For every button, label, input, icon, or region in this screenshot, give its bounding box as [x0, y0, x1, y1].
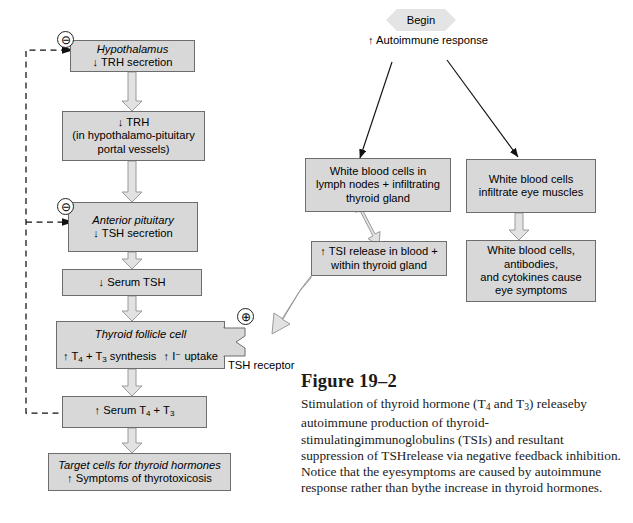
wbc-eye-line2: infiltrate eye muscles [479, 186, 583, 199]
tsh-receptor-notch [223, 326, 255, 358]
figure-title: Figure 19–2 [301, 371, 621, 392]
serum-t4-t3-label: ↑ Serum T4 + T3 [95, 404, 175, 420]
trh-line2: (in hypothalamo-pituitary [72, 129, 195, 142]
positive-sign-receptor: ⊕ [237, 308, 254, 325]
node-target-cells[interactable]: Target cells for thyroid hormones ↑ Symp… [48, 453, 231, 491]
trh-line3: portal vessels) [97, 143, 169, 156]
tsi-release-line1: ↑ TSI release in blood + [320, 245, 438, 258]
begin-label: Begin [407, 14, 436, 26]
node-thyroid-follicle-cell[interactable]: Thyroid follicle cell ↑ T4 + T3 synthesi… [56, 321, 225, 369]
tsi-to-receptor-arrow [272, 276, 311, 334]
trigger-autoimmune-response: ↑ Autoimmune response [368, 34, 478, 47]
node-hypothalamus[interactable]: Hypothalamus ↓ TRH secretion [70, 40, 195, 72]
target-cells-detail: ↑ Symptoms of thyrotoxicosis [67, 472, 212, 485]
begin-hexagon[interactable]: Begin [386, 9, 456, 31]
wbc-lymph-line3: thyroid gland [346, 192, 410, 205]
eye-symptoms-line2: antibodies, [504, 258, 558, 271]
trigger-branch-arrows [360, 60, 518, 158]
follicle-synthesis: ↑ T4 + T3 synthesis [63, 350, 156, 366]
node-serum-t4-t3[interactable]: ↑ Serum T4 + T3 [62, 396, 207, 428]
figure-canvas: Hypothalamus ↓ TRH secretion ↓ TRH (in h… [0, 0, 633, 523]
figure-caption: Figure 19–2 Stimulation of thyroid hormo… [301, 371, 621, 496]
wbc-lymph-line2: lymph nodes + infiltrating [316, 178, 440, 191]
node-wbc-eye-muscles[interactable]: White blood cells infiltrate eye muscles [466, 159, 596, 213]
trigger-line1: ↑ Autoimmune [368, 34, 439, 46]
trh-line1: ↓ TRH [118, 116, 150, 129]
node-anterior-pituitary[interactable]: Anterior pituitary ↓ TSH secretion [68, 202, 198, 252]
positive-sign-receptor-glyph: ⊕ [241, 311, 251, 323]
anterior-pituitary-detail: ↓ TSH secretion [93, 227, 172, 240]
node-eye-symptoms[interactable]: White blood cells, antibodies, and cytok… [466, 240, 596, 302]
eye-symptoms-line1: White blood cells, [487, 244, 575, 257]
negative-sign-hypothalamus: ⊖ [57, 31, 74, 48]
eye-symptoms-line4: eye symptoms [495, 284, 567, 297]
eye-symptoms-line3: and cytokines cause [480, 271, 581, 284]
serum-tsh-label: ↓ Serum TSH [99, 276, 166, 289]
hypothalamus-detail: ↓ TRH secretion [93, 56, 173, 69]
negative-sign-pituitary-glyph: ⊖ [61, 201, 71, 213]
tsh-receptor-line1: TSH [228, 359, 250, 371]
follicle-title: Thyroid follicle cell [95, 328, 186, 341]
trigger-line2: response [442, 34, 488, 46]
wbc-eye-line1: White blood cells [489, 173, 574, 186]
node-wbc-lymph-nodes[interactable]: White blood cells in lymph nodes + infil… [305, 158, 451, 212]
hypothalamus-title: Hypothalamus [97, 43, 169, 56]
tsi-release-line2: within thyroid gland [331, 259, 427, 272]
node-trh[interactable]: ↓ TRH (in hypothalamo-pituitary portal v… [62, 111, 205, 161]
figure-caption-body: Stimulation of thyroid hormone (T4 and T… [301, 396, 621, 496]
negative-sign-pituitary: ⊖ [57, 198, 74, 215]
node-serum-tsh[interactable]: ↓ Serum TSH [62, 269, 202, 296]
anterior-pituitary-title: Anterior pituitary [92, 214, 173, 227]
negative-sign-hypothalamus-glyph: ⊖ [61, 34, 71, 46]
target-cells-title: Target cells for thyroid hormones [58, 459, 221, 472]
follicle-uptake: ↑ I⁻ uptake [163, 350, 218, 366]
tsh-receptor-line2: receptor [253, 359, 294, 371]
node-tsi-release[interactable]: ↑ TSI release in blood + within thyroid … [311, 241, 447, 276]
wbc-lymph-line1: White blood cells in [330, 165, 426, 178]
tsh-receptor-label: TSH receptor [228, 359, 295, 372]
